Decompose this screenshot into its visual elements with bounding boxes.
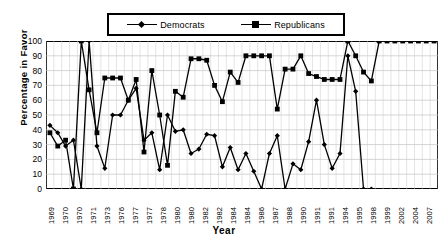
x-tick-label: 1999 — [383, 207, 392, 224]
y-tick-label: 40 — [33, 125, 42, 135]
legend-label-republicans: Republicans — [274, 20, 325, 30]
x-tick-label: 1984 — [243, 207, 252, 224]
x-tick-label: 2002 — [397, 207, 406, 224]
y-tick-label: 50 — [33, 110, 42, 120]
x-tick-label: 1991 — [313, 207, 322, 224]
x-tick-label: 1998 — [369, 207, 378, 224]
x-tick-label: 1969 — [47, 207, 56, 224]
y-tick-label: 80 — [33, 66, 42, 76]
y-tick-label: 60 — [33, 95, 42, 105]
x-tick-label: 1970 — [61, 207, 70, 224]
x-tick-label: 1977 — [145, 207, 154, 224]
x-tick-label: 1995 — [355, 207, 364, 224]
x-axis-tick-labels: 1969197019701971197319761977197719781980… — [46, 192, 438, 224]
x-axis-title: Year — [0, 225, 448, 236]
legend-item-republicans: Republicans — [241, 20, 325, 30]
x-tick-label: 1980 — [173, 207, 182, 224]
y-tick-label: 100 — [28, 36, 42, 46]
legend-line-democrats — [127, 20, 157, 29]
y-tick-label: 90 — [33, 51, 42, 61]
x-tick-label: 1991 — [327, 207, 336, 224]
x-tick-label: 1978 — [159, 207, 168, 224]
x-tick-label: 1980 — [187, 207, 196, 224]
x-tick-label: 1984 — [229, 207, 238, 224]
square-marker-icon — [252, 21, 259, 28]
x-tick-label: 2004 — [411, 207, 420, 224]
chart-canvas — [46, 41, 438, 189]
x-tick-label: 1982 — [215, 207, 224, 224]
x-tick-label: 1994 — [341, 207, 350, 224]
x-tick-label: 1986 — [257, 207, 266, 224]
legend-label-democrats: Democrats — [160, 20, 204, 30]
x-tick-label: 2007 — [425, 207, 434, 224]
x-tick-label: 1990 — [299, 207, 308, 224]
x-tick-label: 1970 — [75, 207, 84, 224]
diamond-marker-icon — [138, 21, 145, 28]
y-tick-label: 20 — [33, 154, 42, 164]
y-tick-label: 10 — [33, 169, 42, 179]
legend-line-republicans — [241, 20, 271, 29]
y-tick-label: 30 — [33, 140, 42, 150]
x-tick-label: 1977 — [131, 207, 140, 224]
plot-area — [46, 41, 438, 189]
x-tick-label: 1988 — [285, 207, 294, 224]
legend-item-democrats: Democrats — [127, 20, 204, 30]
x-tick-label: 1971 — [89, 207, 98, 224]
chart-legend: Democrats Republicans — [107, 13, 345, 36]
y-axis-tick-labels: 0102030405060708090100 — [0, 41, 44, 189]
y-tick-label: 70 — [33, 80, 42, 90]
x-tick-label: 1976 — [117, 207, 126, 224]
y-tick-label: 0 — [37, 184, 42, 194]
x-tick-label: 1973 — [103, 207, 112, 224]
x-tick-label: 1982 — [201, 207, 210, 224]
chart-figure: Democrats Republicans Percentage in Favo… — [0, 0, 448, 247]
x-tick-label: 1987 — [271, 207, 280, 224]
